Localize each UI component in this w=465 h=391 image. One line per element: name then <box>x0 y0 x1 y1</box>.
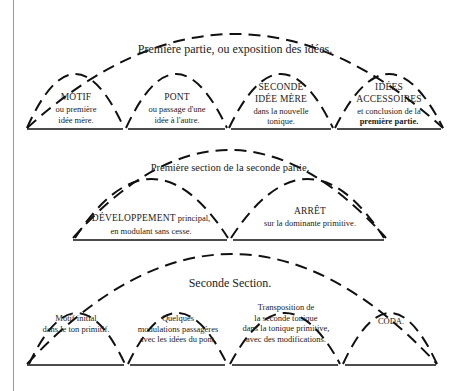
cell-line: ou première <box>35 104 117 115</box>
cell-line: idée mère. <box>35 115 117 126</box>
cell-motif: MOTIF ou première idée mère. <box>35 92 117 125</box>
cell-head: SECONDE <box>238 82 324 94</box>
cell-line: Quelques <box>131 313 225 324</box>
cell-line: en modulant sans cesse. <box>80 226 222 237</box>
cell-line: modulations passagères <box>131 324 225 335</box>
cell-line: avec les idées du pont. <box>131 334 225 345</box>
cell-line: dans la nouvelle <box>238 106 324 117</box>
cell-line: Transposition de <box>233 302 339 313</box>
cell-idees-accessoires: IDÉES ACCESSOIRES et conclusion de la pr… <box>341 82 437 127</box>
row-2-title: Première section de la seconde partie. <box>110 161 350 174</box>
cell-line-bold: première partie. <box>341 116 437 127</box>
cell-line: et conclusion de la <box>341 106 437 117</box>
cell-head: PONT <box>133 92 221 104</box>
cell-line: dans la tonique primitive, <box>233 323 339 334</box>
cell-head-suffix: principal, <box>176 213 210 223</box>
cell-head-2: IDÉE MÈRE <box>238 94 324 106</box>
cell-line: la seconde tonique <box>233 313 339 324</box>
cell-coda: CODA. <box>348 316 434 327</box>
cell-transposition: Transposition de la seconde tonique dans… <box>233 302 339 345</box>
cell-arret: ARRÊT sur la dominante primitive. <box>240 206 380 229</box>
cell-quelques-modulations: Quelques modulations passagères avec les… <box>131 313 225 345</box>
cell-head-line: DÉVELOPPEMENT principal, <box>80 206 222 226</box>
cell-line: tonique. <box>238 116 324 127</box>
cell-line: dans le ton primitif. <box>33 324 119 335</box>
cell-head-2: ACCESSOIRES <box>341 94 437 106</box>
cell-line: avec des modifications. <box>233 334 339 345</box>
cell-head: IDÉES <box>341 82 437 94</box>
cell-head: MOTIF <box>35 92 117 104</box>
cell-pont: PONT ou passage d'une idée à l'autre. <box>133 92 221 125</box>
row-3-outer-arc <box>27 254 437 364</box>
cell-developpement: DÉVELOPPEMENT principal, en modulant san… <box>80 206 222 237</box>
cell-seconde-idee-mere: SECONDE IDÉE MÈRE dans la nouvelle toniq… <box>238 82 324 127</box>
cell-line: idée à l'autre. <box>133 115 221 126</box>
cell-motif-initial: Motif initial dans le ton primitif. <box>33 313 119 334</box>
cell-line: Motif initial <box>33 313 119 324</box>
cell-line: ou passage d'une <box>133 104 221 115</box>
row-3-shapes <box>27 254 437 365</box>
cell-head: DÉVELOPPEMENT <box>92 213 176 223</box>
row-3-title: Seconde Section. <box>140 276 320 291</box>
row-1-title: Première partie, ou exposition des idées… <box>90 42 380 57</box>
diagram-page: Première partie, ou exposition des idées… <box>0 0 465 391</box>
cell-head: CODA. <box>348 316 434 327</box>
cell-head: ARRÊT <box>240 206 380 218</box>
cell-line: sur la dominante primitive. <box>240 218 380 229</box>
